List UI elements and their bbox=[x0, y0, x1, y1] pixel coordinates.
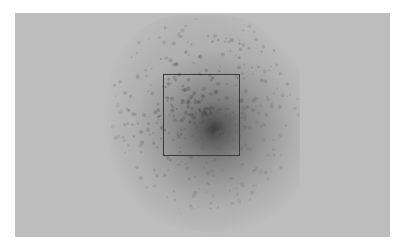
speckle-dot bbox=[213, 35, 215, 37]
speckle-dot bbox=[153, 132, 155, 134]
speckle-dot bbox=[281, 93, 285, 97]
speckle-dot bbox=[244, 117, 246, 119]
speckle-dot bbox=[164, 56, 168, 60]
speckle-dot bbox=[240, 98, 244, 102]
speckle-dot bbox=[237, 66, 241, 70]
speckle-dot bbox=[115, 103, 119, 107]
speckle-dot bbox=[124, 152, 126, 154]
speckle-dot bbox=[266, 96, 269, 99]
speckle-dot bbox=[276, 88, 278, 90]
speckle-dot bbox=[160, 58, 162, 60]
speckle-dot bbox=[205, 69, 208, 72]
speckle-dot bbox=[228, 40, 231, 43]
speckle-dot bbox=[280, 154, 282, 156]
speckle-dot bbox=[254, 97, 258, 101]
speckle-dot bbox=[264, 79, 268, 83]
speckle-dot bbox=[127, 109, 129, 111]
speckle-dot bbox=[193, 62, 195, 64]
speckle-dot bbox=[270, 66, 272, 68]
speckle-dot bbox=[241, 163, 244, 166]
speckle-dot bbox=[178, 164, 180, 166]
speckle-dot bbox=[238, 56, 241, 59]
speckle-dot bbox=[142, 113, 146, 117]
speckle-dot bbox=[268, 69, 270, 71]
speckle-dot bbox=[241, 72, 244, 75]
speckle-dot bbox=[279, 72, 283, 76]
speckle-dot bbox=[156, 146, 159, 149]
speckle-dot bbox=[238, 42, 241, 45]
speckle-dot bbox=[175, 62, 178, 65]
speckle-dot bbox=[135, 165, 139, 169]
speckle-dot bbox=[198, 188, 200, 190]
speckle-dot bbox=[123, 123, 126, 126]
speckle-dot bbox=[273, 93, 275, 95]
speckle-dot bbox=[224, 185, 226, 187]
speckle-dot bbox=[236, 187, 238, 189]
speckle-dot bbox=[178, 32, 180, 34]
speckle-dot bbox=[162, 40, 166, 44]
speckle-dot bbox=[264, 113, 268, 117]
speckle-dot bbox=[195, 18, 197, 20]
speckle-dot bbox=[239, 167, 241, 169]
speckle-dot bbox=[184, 25, 187, 28]
speckle-dot bbox=[139, 176, 143, 180]
speckle-dot bbox=[263, 70, 267, 74]
speckle-dot bbox=[197, 207, 199, 209]
speckle-dot bbox=[224, 41, 226, 43]
speckle-dot bbox=[210, 202, 213, 205]
speckle-dot bbox=[117, 135, 120, 138]
speckle-dot bbox=[219, 66, 221, 68]
speckle-dot bbox=[286, 82, 289, 85]
speckle-dot bbox=[159, 114, 162, 117]
speckle-dot bbox=[278, 133, 282, 137]
speckle-dot bbox=[126, 122, 129, 125]
speckle-dot bbox=[262, 138, 266, 142]
speckle-dot bbox=[221, 53, 225, 57]
speckle-dot bbox=[147, 122, 150, 125]
speckle-dot bbox=[211, 40, 214, 43]
speckle-dot bbox=[164, 26, 166, 28]
speckle-dot bbox=[207, 172, 210, 175]
speckle-dot bbox=[140, 151, 143, 154]
speckle-dot bbox=[242, 107, 246, 111]
speckle-dot bbox=[248, 126, 252, 130]
speckle-dot bbox=[173, 190, 176, 193]
speckle-dot bbox=[209, 207, 211, 209]
speckle-dot bbox=[255, 120, 259, 124]
speckle-dot bbox=[252, 73, 254, 75]
speckle-dot bbox=[185, 163, 187, 165]
speckle-dot bbox=[289, 94, 291, 96]
speckle-dot bbox=[243, 77, 246, 80]
speckle-dot bbox=[156, 108, 160, 112]
speckle-dot bbox=[148, 38, 150, 40]
speckle-dot bbox=[236, 193, 239, 196]
speckle-dot bbox=[259, 105, 262, 108]
speckle-dot bbox=[155, 122, 158, 125]
speckle-dot bbox=[136, 75, 140, 79]
speckle-dot bbox=[153, 169, 156, 172]
speckle-dot bbox=[255, 47, 257, 49]
speckle-dot bbox=[248, 24, 252, 28]
speckle-dot bbox=[275, 63, 278, 66]
speckle-dot bbox=[257, 112, 260, 115]
speckle-dot bbox=[228, 156, 230, 158]
speckle-dot bbox=[279, 166, 283, 170]
speckle-dot bbox=[186, 167, 190, 171]
speckle-dot bbox=[123, 92, 125, 94]
speckle-dot bbox=[203, 167, 205, 169]
speckle-dot bbox=[178, 208, 180, 210]
speckle-dot bbox=[154, 142, 156, 144]
speckle-dot bbox=[205, 168, 207, 170]
speckle-dot bbox=[136, 52, 138, 54]
speckle-dot bbox=[135, 113, 137, 115]
speckle-dot bbox=[286, 95, 288, 97]
speckle-dot bbox=[167, 169, 169, 171]
speckle-dot bbox=[285, 124, 287, 126]
speckle-dot bbox=[149, 134, 151, 136]
speckle-dot bbox=[187, 42, 189, 44]
speckle-dot bbox=[278, 105, 282, 109]
speckle-dot bbox=[240, 182, 244, 186]
speckle-dot bbox=[146, 128, 150, 132]
speckle-dot bbox=[115, 95, 117, 97]
speckle-dot bbox=[173, 198, 176, 201]
